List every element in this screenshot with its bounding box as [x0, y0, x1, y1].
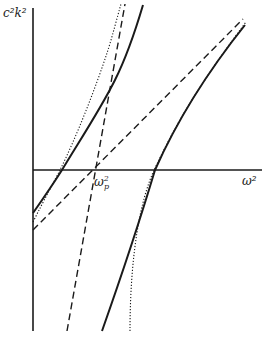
- x-axis-label: ω²: [242, 174, 257, 188]
- y-axis-label: c²k²: [3, 6, 27, 20]
- plasma-frequency-label: ω2p: [94, 174, 109, 191]
- upper-solid-branch: [33, 5, 143, 213]
- diagram-canvas: [0, 0, 280, 341]
- lower-dotted-branch: [130, 22, 246, 331]
- dispersion-diagram: c²k² ω² ω2p: [0, 0, 280, 341]
- shallow-dashed-asymptote: [33, 19, 243, 230]
- lower-solid-branch: [102, 25, 245, 331]
